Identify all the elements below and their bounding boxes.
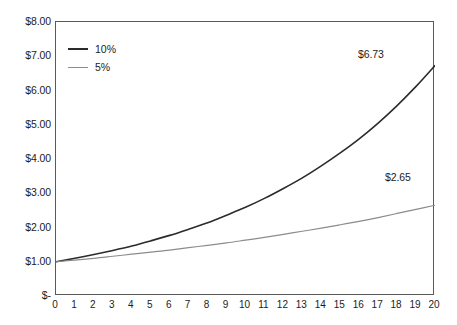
y-axis-tick-label: $2.00 [0, 221, 51, 233]
legend-item[interactable]: 10% [68, 40, 188, 58]
data-label-673: $6.73 [358, 48, 384, 60]
y-axis-tick-label: $8.00 [0, 15, 51, 27]
y-axis-tick-label: $5.00 [0, 118, 51, 130]
series-line-5pct [56, 205, 435, 262]
legend-label: 5% [95, 62, 110, 73]
y-axis-tick-label: $7.00 [0, 49, 51, 61]
legend-swatch-icon [68, 67, 88, 68]
y-axis-tick-label: $3.00 [0, 186, 51, 198]
data-label-265: $2.65 [385, 171, 411, 183]
series-line-10pct [56, 66, 435, 262]
compound-growth-line-chart: $8.00$7.00$6.00$5.00$4.00$3.00$2.00$1.00… [0, 0, 457, 325]
legend: 10%5% [68, 40, 188, 76]
x-axis-tick-label: 20 [423, 299, 445, 310]
y-axis-tick-label: $4.00 [0, 152, 51, 164]
y-axis-tick-label: $1.00 [0, 255, 51, 267]
legend-label: 10% [95, 44, 116, 55]
legend-item[interactable]: 5% [68, 58, 188, 76]
legend-swatch-icon [68, 48, 88, 50]
y-axis-tick-label: $6.00 [0, 84, 51, 96]
x-axis: 01234567891011121314151617181920 [55, 299, 434, 315]
